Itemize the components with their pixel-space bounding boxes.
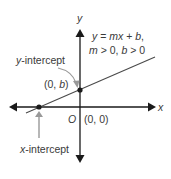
y-axis-label: y	[76, 12, 83, 24]
y-axis-up-arrow-icon	[76, 29, 85, 37]
equation-line-1: y = mx + b,	[91, 30, 144, 42]
equation-line-2: m > 0, b > 0	[89, 44, 145, 56]
y-intercept-label: y-intercept	[15, 54, 65, 66]
y-axis-down-arrow-icon	[76, 155, 85, 163]
origin-label: O	[68, 113, 76, 125]
up-arrow-head-icon	[35, 111, 43, 117]
diagram-canvas: y x O (0, 0) y = mx + b, m > 0, b > 0 y-…	[0, 0, 171, 179]
y-intercept-coords: (0, b)	[44, 78, 69, 90]
x-axis-label: x	[157, 101, 164, 113]
x-intercept-pointer	[35, 111, 43, 138]
curved-arrow-head-icon	[73, 81, 80, 89]
x-axis-right-arrow-icon	[148, 103, 156, 112]
x-intercept-point	[36, 104, 41, 109]
y-axis	[76, 29, 85, 163]
x-intercept-label: x-intercept	[19, 143, 69, 155]
x-axis	[9, 103, 156, 112]
x-axis-left-arrow-icon	[9, 103, 17, 112]
y-intercept-point	[77, 87, 82, 92]
origin-coords: (0, 0)	[84, 113, 109, 125]
